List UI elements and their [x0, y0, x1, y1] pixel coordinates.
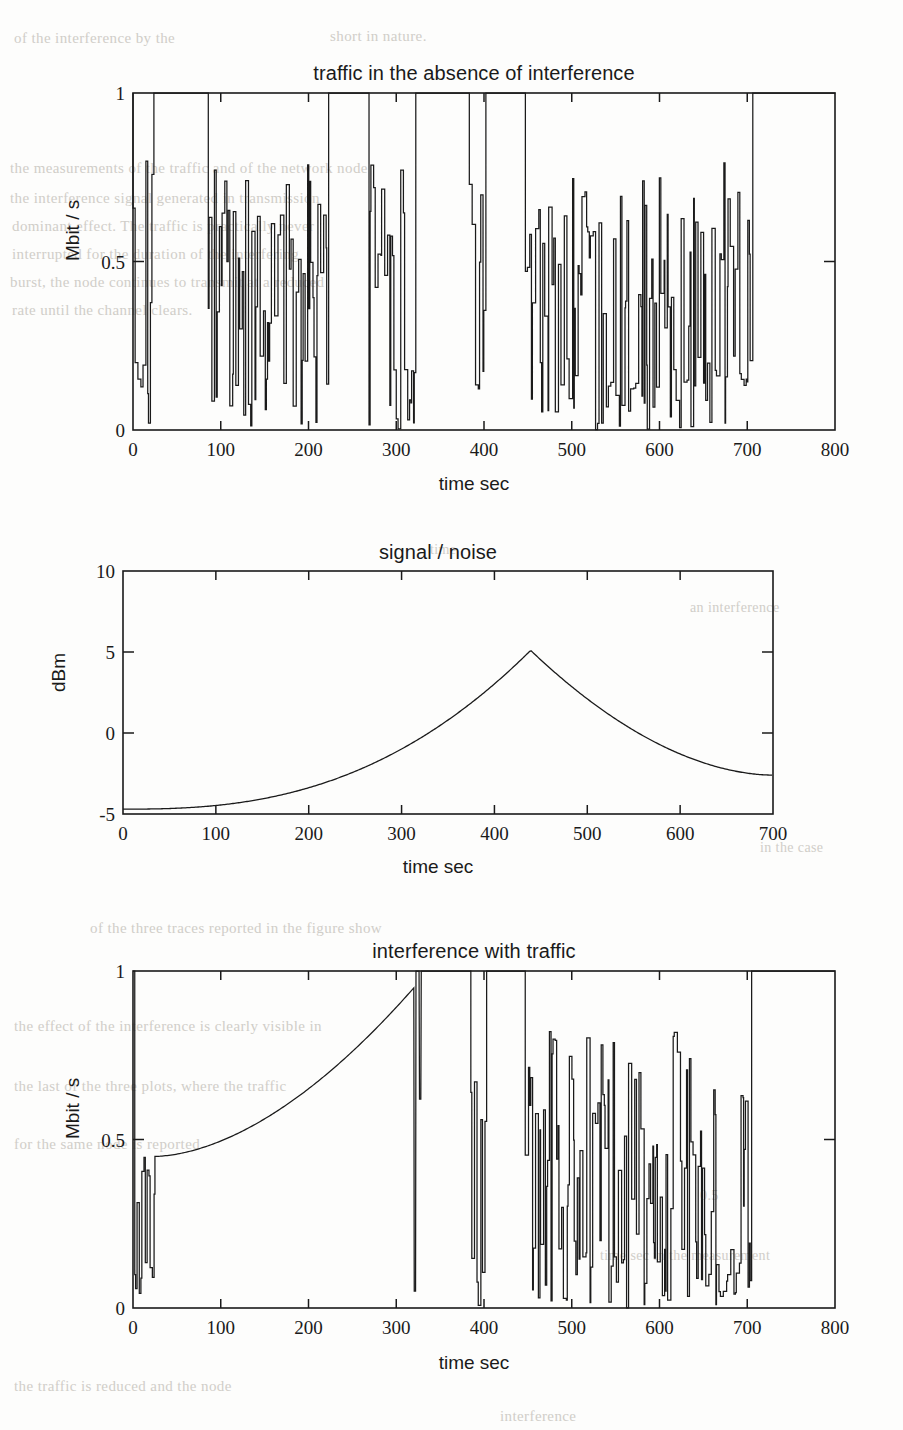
- chart-canvas: 0100200300400500600700-50510: [81, 557, 795, 848]
- x-tick-label: 500: [558, 1317, 587, 1338]
- scanned-figure-page: of the interference by theshort in natur…: [0, 0, 903, 1430]
- y-tick-label: -5: [99, 804, 115, 825]
- chart-canvas: 010020030040050060070080000.51: [89, 957, 859, 1342]
- x-tick-label: 600: [645, 1317, 674, 1338]
- x-tick-label: 300: [382, 439, 411, 460]
- x-tick-label: 400: [470, 1317, 499, 1338]
- traffic-trace: [133, 93, 835, 430]
- y-tick-label: 0: [106, 723, 116, 744]
- y-tick-label: 1: [116, 83, 126, 104]
- figure-interference-traffic: interference with traffic Mbit / s time …: [89, 957, 859, 1342]
- background-text-line: the traffic is reduced and the node: [14, 1378, 232, 1395]
- chart-title: interference with traffic: [89, 940, 859, 963]
- x-axis-label: time sec: [89, 473, 859, 495]
- background-text-line: interference: [500, 1408, 576, 1425]
- x-axis-label: time sec: [89, 1352, 859, 1374]
- x-tick-label: 400: [480, 823, 509, 844]
- x-tick-label: 600: [666, 823, 695, 844]
- x-tick-label: 700: [759, 823, 788, 844]
- x-tick-label: 200: [294, 823, 323, 844]
- figure-traffic-absence: traffic in the absence of interference M…: [89, 79, 859, 464]
- chart-title: traffic in the absence of interference: [89, 62, 859, 85]
- x-tick-label: 0: [128, 1317, 138, 1338]
- x-tick-label: 800: [821, 439, 850, 460]
- x-tick-label: 500: [573, 823, 602, 844]
- x-tick-label: 100: [207, 1317, 236, 1338]
- y-tick-label: 0.5: [101, 252, 125, 273]
- x-tick-label: 300: [387, 823, 416, 844]
- y-tick-label: 0.5: [101, 1130, 125, 1151]
- x-tick-label: 0: [118, 823, 128, 844]
- background-text-line: of the interference by the: [14, 30, 175, 47]
- y-tick-label: 1: [116, 961, 126, 982]
- x-tick-label: 700: [733, 1317, 762, 1338]
- x-tick-label: 0: [128, 439, 138, 460]
- background-text-line: of the three traces reported in the figu…: [90, 920, 382, 937]
- chart-canvas: 010020030040050060070080000.51: [89, 79, 859, 464]
- x-tick-label: 100: [207, 439, 236, 460]
- background-text-line: short in nature.: [330, 28, 427, 45]
- x-tick-label: 800: [821, 1317, 850, 1338]
- x-tick-label: 700: [733, 439, 762, 460]
- x-tick-label: 600: [645, 439, 674, 460]
- y-tick-label: 0: [116, 420, 126, 441]
- x-tick-label: 100: [202, 823, 231, 844]
- y-tick-label: 5: [106, 642, 116, 663]
- x-tick-label: 200: [294, 439, 323, 460]
- chart-title: signal / noise: [81, 541, 795, 564]
- x-tick-label: 300: [382, 1317, 411, 1338]
- y-tick-label: 0: [116, 1298, 126, 1319]
- signal-noise-trace: [123, 651, 772, 809]
- x-axis-label: time sec: [81, 856, 795, 878]
- x-tick-label: 400: [470, 439, 499, 460]
- y-tick-label: 10: [96, 561, 115, 582]
- x-tick-label: 200: [294, 1317, 323, 1338]
- figure-signal-noise: signal / noise dBm time sec 010020030040…: [81, 557, 795, 848]
- x-tick-label: 500: [558, 439, 587, 460]
- interference-traffic-trace: [133, 971, 835, 1308]
